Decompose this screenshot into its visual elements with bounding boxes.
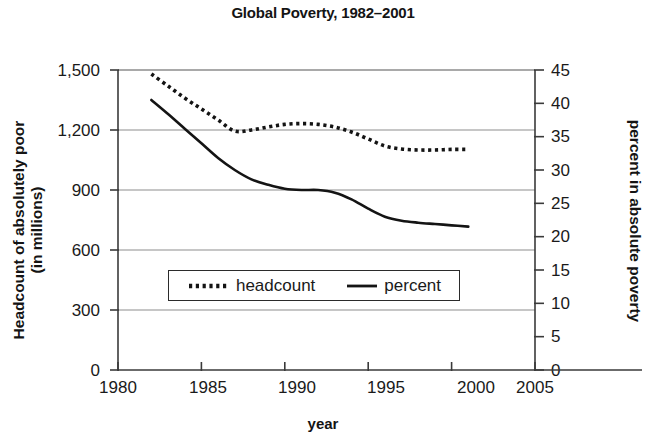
legend-dotted-swatch-icon <box>187 281 231 291</box>
series-line-percent <box>151 100 468 227</box>
legend-label-percent: percent <box>384 276 441 296</box>
chart-legend: headcount percent <box>168 270 460 301</box>
legend-entry-percent: percent <box>345 276 441 296</box>
legend-label-headcount: headcount <box>236 276 315 296</box>
axis-frame <box>118 70 642 370</box>
legend-entry-headcount: headcount <box>187 276 315 296</box>
legend-solid-swatch-icon <box>345 281 379 291</box>
series-line-headcount <box>151 74 468 150</box>
chart-figure: Global Poverty, 1982–2001 Headcount of a… <box>0 0 646 442</box>
plot-area <box>0 0 646 442</box>
